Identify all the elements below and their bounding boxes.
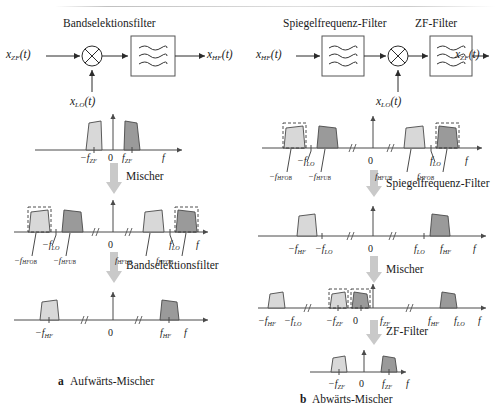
left-step-label-bandselektionsfilter: Bandselektionsfilter [126,260,219,272]
left-s1-tick-neg-fzf: −fZF [80,153,97,164]
left-s2-tick-neg-fhfob: −fHFOB [14,256,37,266]
right-s2-zero: 0 [368,244,373,254]
right-s3-axis-label: f [478,316,481,326]
left-step-label-mischer: Mischer [126,171,164,183]
caption-b-text: Abwärts-Mischer [312,394,392,406]
right-s4-tick-neg-fzf: −fZF [328,379,345,390]
right-s3-tick-neg-fhf: −fHF [258,316,276,327]
left-s2-tick-flo: fLO [169,240,180,251]
right-block-diagram-vectors [296,36,489,92]
right-step-label-spiegelfrequenz-filter: Spiegelfrequenz-Filter [386,178,489,190]
right-filter2-title: ZF-Filter [415,18,457,30]
right-s3-tick-flo: fLO [454,316,465,327]
right-s4-axis-label: f [406,379,409,389]
left-filter-title: Bandselektionsfilter [63,18,156,30]
right-output-signal-label: xZF(t) [455,49,479,62]
right-lo-signal-label: xLO(t) [376,96,401,109]
right-spectrum-3-vectors [258,284,486,312]
right-s4-tick-fzf: fZF [382,379,392,390]
right-s3-tick-fhf: fHF [428,316,439,327]
right-s2-tick-flo: fLO [414,244,425,255]
right-s2-tick-neg-flo: −fLO [315,244,333,255]
right-s1-tick-neg-fhfob: −fHFOB [269,172,292,182]
left-s3-tick-neg-fhf: −fHF [35,328,53,339]
left-input-signal-label: xZF(t) [6,49,30,62]
left-s3-axis-label: f [184,328,187,338]
right-s2-tick-fhf: fHF [440,244,451,255]
right-spectrum-4-vectors [310,350,406,375]
right-s1-tick-neg-fhfub: −fHFUB [308,172,331,182]
right-s3-zero: 0 [353,316,358,326]
right-spectrum-2-vectors [258,206,486,240]
right-filter1-title: Spiegelfrequenz-Filter [283,18,386,30]
right-input-signal-label: xHF(t) [256,49,282,62]
right-s4-zero: 0 [359,379,364,389]
right-s1-tick-neg-flo: −fLO [297,156,315,167]
left-spectrum-1-vectors [35,114,182,153]
right-step-label-zf-filter: ZF-Filter [386,326,428,338]
left-block-diagram-vectors [46,36,205,92]
right-step-arrow-2 [366,256,382,283]
left-s2-zero: 0 [108,240,113,250]
caption-a-text: Aufwärts-Mischer [70,376,154,388]
figure-mixer-spectra: Bandselektionsfilter xZF(t) xLO(t) xHF(t… [0,0,497,419]
left-s1-tick-fzf: fZF [122,153,132,164]
right-s1-zero: 0 [368,156,373,166]
right-s3-tick-neg-fzf: −fZF [326,316,343,327]
right-s1-tick-flo: fLO [430,156,441,167]
right-s1-axis-label: f [465,156,468,166]
left-output-signal-label: xHF(t) [207,49,233,62]
figure-vector-layer [0,0,497,419]
left-lo-signal-label: xLO(t) [70,96,95,109]
caption-b-marker: b [300,394,306,406]
right-step-label-mischer: Mischer [386,264,424,276]
caption-a-marker: a [58,376,64,388]
left-s1-axis-label: f [162,153,165,163]
left-s2-tick-neg-fhfub: −fHFUB [53,256,76,266]
right-s2-axis-label: f [473,244,476,254]
left-spectrum-3-vectors [14,292,208,324]
right-s3-tick-neg-flo: −fLO [284,316,302,327]
left-s3-tick-fhf: fHF [160,328,171,339]
right-s2-tick-neg-fhf: −fHF [288,244,306,255]
left-s2-tick-neg-flo: −fLO [42,240,60,251]
left-step-arrow-1 [106,163,122,194]
left-s3-zero: 0 [108,328,113,338]
left-s2-axis-label: f [196,240,199,250]
left-s1-zero: 0 [108,153,113,163]
